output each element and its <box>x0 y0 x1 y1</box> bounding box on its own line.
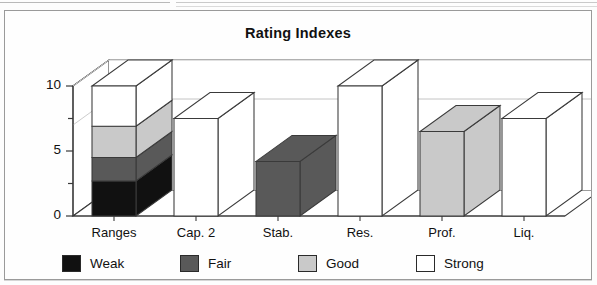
bar-front-face-good <box>92 126 136 157</box>
scan-artifact-line <box>0 2 170 3</box>
bar-front-face-weak <box>92 181 136 216</box>
bar-front-face-strong <box>92 86 136 126</box>
scan-artifact-line <box>176 2 597 3</box>
scanned-page: Rating Indexes 1050 RangesCap. 2Stab.Res… <box>0 0 597 285</box>
legend-swatch-fair <box>180 255 199 272</box>
bar-front-face-fair <box>92 158 136 181</box>
y-axis-tick-label: 0 <box>35 207 61 222</box>
bar-front-face-good <box>420 132 464 217</box>
y-axis-tick-label: 5 <box>35 142 61 157</box>
bar-side-face-strong <box>382 60 418 216</box>
legend-label: Fair <box>208 256 231 271</box>
legend-label: Strong <box>444 256 484 271</box>
legend-swatch-weak <box>62 255 81 272</box>
x-axis-tick-label: Cap. 2 <box>157 225 235 240</box>
x-axis-tick-label: Stab. <box>239 225 317 240</box>
legend-label: Weak <box>90 256 124 271</box>
legend-item: Good <box>298 255 416 272</box>
bar-front-face-strong <box>502 119 546 217</box>
bar-front-face-strong <box>338 86 382 216</box>
bar-front-face-strong <box>174 119 218 217</box>
x-axis-tick-label: Liq. <box>485 225 563 240</box>
legend-swatch-good <box>298 255 317 272</box>
legend-swatch-strong <box>416 255 435 272</box>
scan-artifact-line <box>176 6 597 7</box>
legend-item: Weak <box>62 255 180 272</box>
chart-frame: Rating Indexes 1050 RangesCap. 2Stab.Res… <box>4 10 592 280</box>
y-axis-tick-label: 10 <box>35 77 61 92</box>
x-axis-tick-label: Prof. <box>403 225 481 240</box>
x-axis-tick-label: Ranges <box>75 225 153 240</box>
legend-item: Strong <box>416 255 534 272</box>
chart-legend: WeakFairGoodStrong <box>5 251 591 275</box>
legend-label: Good <box>326 256 359 271</box>
x-axis-tick-label: Res. <box>321 225 399 240</box>
legend-item: Fair <box>180 255 298 272</box>
bar-front-face-fair <box>256 161 300 216</box>
